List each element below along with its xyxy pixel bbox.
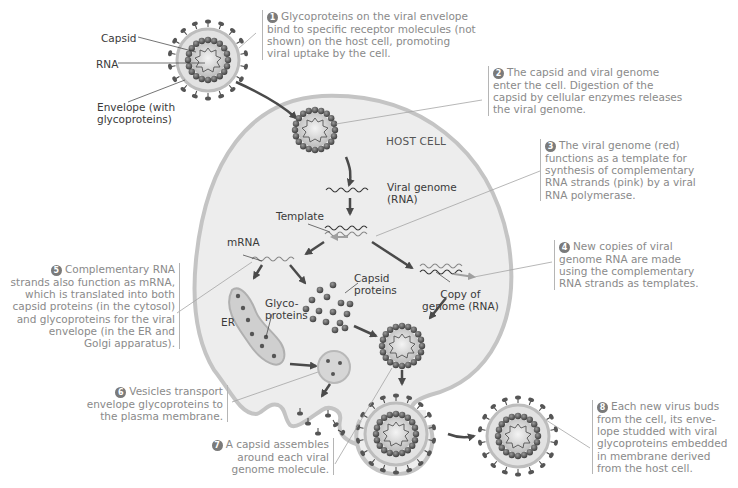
step-2-line: the viral genome. <box>493 103 586 115</box>
step-4-line: RNA strands as templates. <box>559 277 699 289</box>
label-mrna: mRNA <box>227 236 260 248</box>
step-5-line: Complementary RNA <box>65 263 175 275</box>
step-3-line: RNA strands (pink) by a viral <box>545 176 696 188</box>
step-1-line: bind to specific receptor molecules (not <box>267 23 476 35</box>
step-5-number-icon: 5 <box>51 265 62 276</box>
label-capsid: Capsid <box>101 32 136 44</box>
label-capsid-proteins: Capsid proteins <box>354 272 397 296</box>
label-envelope-line2: glycoproteins) <box>97 113 175 125</box>
label-copy-line1: Copy of <box>422 288 499 300</box>
step-7-line: genome molecule. <box>232 463 329 475</box>
step-8-line: Each new virus buds <box>611 400 719 412</box>
step-7-line: A capsid assembles <box>226 438 329 450</box>
step-4-number-icon: 4 <box>559 242 570 253</box>
step-6-number-icon: 6 <box>115 387 126 398</box>
step-5-line: which is translated into both <box>25 288 175 300</box>
step-1-number-icon: 1 <box>267 12 278 23</box>
step-2-line: enter the cell. Digestion of the <box>493 79 653 91</box>
label-glycoproteins: Glyco- proteins <box>265 297 308 321</box>
transport-vesicle <box>318 351 350 383</box>
step-8-line: from the host cell. <box>597 462 693 474</box>
label-capsid-proteins-line2: proteins <box>354 284 397 296</box>
label-glyco-line1: Glyco- <box>265 297 308 309</box>
step-8-callout: 8Each new virus buds from the cell, its … <box>592 400 727 474</box>
step-3-callout: 3The viral genome (red) functions as a t… <box>540 139 696 201</box>
step-5-line: and glycoproteins for the viral <box>17 313 175 325</box>
step-6-line: the plasma membrane. <box>100 410 223 422</box>
step-8-line: lope studded with viral <box>597 425 717 437</box>
step-5-line: envelope (in the ER and <box>49 325 175 337</box>
step-4-line: genome RNA are made <box>559 253 681 265</box>
step-7-line: around each viral <box>237 451 329 463</box>
step-8-line: glycoproteins embedded <box>597 437 727 449</box>
step-2-number-icon: 2 <box>493 68 504 79</box>
label-viral-genome-line1: Viral genome <box>387 181 457 193</box>
step-5-line: Golgi apparatus). <box>84 337 175 349</box>
step-1-line: viral uptake by the cell. <box>267 47 391 59</box>
step-5-callout: 5Complementary RNA strands also function… <box>11 263 180 349</box>
virion-attaching <box>168 20 249 101</box>
step-8-line: in membrane derived <box>597 450 710 462</box>
label-er: ER <box>221 316 235 328</box>
host-cell-membrane <box>195 96 512 445</box>
step-8-number-icon: 8 <box>597 402 608 413</box>
label-rna: RNA <box>96 58 118 70</box>
step-5-line: capsid proteins (in the cytosol) <box>13 300 175 312</box>
step-6-callout: 6Vesicles transport envelope glycoprotei… <box>87 385 228 422</box>
label-capsid-proteins-line1: Capsid <box>354 272 397 284</box>
step-8-line: from the cell, its enve- <box>597 413 716 425</box>
step-3-line: synthesis of complementary <box>545 164 694 176</box>
step-6-line: Vesicles transport <box>129 385 223 397</box>
step-5-line: strands also function as mRNA, <box>11 276 175 288</box>
step-2-line: The capsid and viral genome <box>507 66 659 78</box>
label-template: Template <box>276 210 324 222</box>
step-7-number-icon: 7 <box>212 440 223 451</box>
viral-replication-diagram: Capsid RNA Envelope (with glycoproteins)… <box>0 0 738 488</box>
label-glyco-line2: proteins <box>265 309 308 321</box>
step-4-line: New copies of viral <box>573 240 673 252</box>
step-4-line: using the complementary <box>559 265 694 277</box>
released-virion <box>478 396 559 477</box>
step-1-line: shown) on the host cell, promoting <box>267 35 450 47</box>
host-cell-label: HOST CELL <box>386 135 446 147</box>
label-envelope-line1: Envelope (with <box>97 101 175 113</box>
label-copy-of-genome: Copy of genome (RNA) <box>422 288 499 312</box>
label-envelope: Envelope (with glycoproteins) <box>97 101 175 125</box>
step-3-line: The viral genome (red) <box>559 139 680 151</box>
step-1-callout: 1Glycoproteins on the viral envelope bin… <box>262 10 476 60</box>
label-copy-line2: genome (RNA) <box>422 300 499 312</box>
step-6-line: envelope glycoproteins to <box>87 398 223 410</box>
step-7-callout: 7A capsid assembles around each viral ge… <box>212 438 334 475</box>
step-3-line: RNA polymerase. <box>545 189 636 201</box>
step-2-line: capsid by cellular enzymes releases <box>493 91 682 103</box>
step-3-line: functions as a template for <box>545 152 687 164</box>
label-viral-genome: Viral genome (RNA) <box>387 181 457 205</box>
step-4-callout: 4New copies of viral genome RNA are made… <box>554 240 699 290</box>
label-viral-genome-line2: (RNA) <box>387 193 457 205</box>
step-1-line: Glycoproteins on the viral envelope <box>281 10 468 22</box>
step-2-callout: 2The capsid and viral genome enter the c… <box>488 66 682 116</box>
step-3-number-icon: 3 <box>545 141 556 152</box>
